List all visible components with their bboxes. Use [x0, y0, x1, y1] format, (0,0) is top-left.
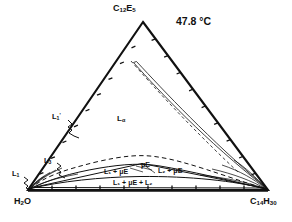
region-label-l1-prime: L1': [52, 113, 61, 122]
region-label-microemulsion: μE: [141, 161, 150, 168]
lamellar-channel-cap: [134, 62, 137, 63]
region-label-l1-plus-microemulsion: L₁ + μE: [104, 168, 128, 175]
phase-diagram-canvas: [0, 0, 292, 222]
region-label-lamellar: Lα: [117, 115, 125, 124]
temperature-annotation: 47.8 °C: [176, 16, 211, 27]
vertex-label-water: H2O: [14, 197, 31, 206]
region-label-l3: L3: [44, 157, 51, 165]
ternary-phase-diagram-figure: C12E5 H2O C14H30 47.8 °C Lα L1' L3 L1 L₁…: [0, 0, 292, 222]
region-label-l1: L1: [12, 170, 19, 178]
vertex-label-oil: C14H30: [250, 197, 277, 206]
region-label-l2-plus-microemulsion: L₂ + μE: [158, 167, 182, 174]
axis-ticks-right-edge: [152, 39, 256, 175]
region-label-three-phase: L₁ + μE + L₂: [113, 179, 152, 186]
axis-ticks-left-edge: [40, 46, 136, 174]
vertex-label-surfactant: C12E5: [113, 4, 136, 13]
